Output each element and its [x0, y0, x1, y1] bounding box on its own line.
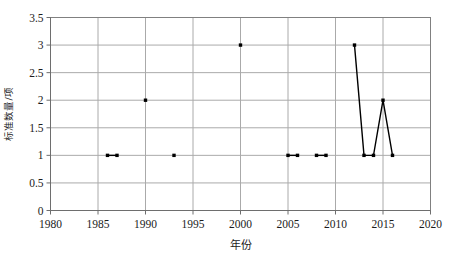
data-point-marker[interactable] [106, 154, 109, 157]
data-point-marker[interactable] [172, 154, 175, 157]
line-chart: 00.511.522.533.5198019851990199520002005… [0, 0, 450, 262]
x-tick-label: 1985 [87, 218, 110, 230]
x-axis-ticks: 198019851990199520002005201020152020 [39, 211, 442, 230]
y-axis-ticks: 00.511.522.533.5 [29, 12, 50, 217]
x-tick-label: 2010 [324, 218, 347, 230]
data-point-marker[interactable] [353, 43, 356, 46]
data-point-marker[interactable] [315, 154, 318, 157]
data-point-marker[interactable] [296, 154, 299, 157]
y-tick-label: 2.5 [29, 67, 44, 79]
data-point-marker[interactable] [239, 43, 242, 46]
data-point-marker[interactable] [381, 99, 384, 102]
data-point-marker[interactable] [324, 154, 327, 157]
x-tick-label: 1990 [134, 218, 157, 230]
x-tick-label: 2015 [372, 218, 395, 230]
data-point-marker[interactable] [115, 154, 118, 157]
x-tick-label: 2020 [419, 218, 442, 230]
data-point-marker[interactable] [372, 154, 375, 157]
x-axis-title: 年份 [230, 238, 252, 252]
y-tick-label: 3 [38, 39, 44, 51]
y-tick-label: 1 [38, 149, 44, 161]
y-tick-label: 1.5 [29, 122, 44, 134]
y-axis-title: 标准数量/项 [3, 87, 14, 140]
x-tick-label: 2005 [277, 218, 300, 230]
x-tick-label: 1980 [39, 218, 62, 230]
chart-container: 00.511.522.533.5198019851990199520002005… [0, 0, 450, 262]
data-point-marker[interactable] [144, 99, 147, 102]
data-point-marker[interactable] [391, 154, 394, 157]
x-tick-label: 2000 [229, 218, 252, 230]
data-point-marker[interactable] [362, 154, 365, 157]
y-tick-label: 2 [38, 94, 44, 106]
y-tick-label: 3.5 [29, 12, 44, 24]
y-tick-label: 0.5 [29, 177, 44, 189]
x-tick-label: 1995 [182, 218, 205, 230]
y-tick-label: 0 [38, 205, 44, 217]
data-point-marker[interactable] [286, 154, 289, 157]
